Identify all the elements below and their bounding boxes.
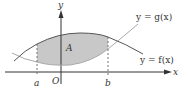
y-axis-arrow-icon bbox=[59, 10, 64, 18]
x-axis-label: x bbox=[173, 67, 178, 77]
x-axis-arrow-icon bbox=[164, 70, 172, 75]
origin-label: O bbox=[52, 76, 60, 86]
y-axis-label: y bbox=[57, 0, 64, 10]
curve-f-label: y = f(x) bbox=[139, 55, 174, 65]
curve-g-label: y = g(x) bbox=[135, 12, 172, 22]
shaded-region-a bbox=[37, 33, 108, 65]
area-between-curves-diagram: y x O a b A y = g(x) y = f(x) bbox=[0, 0, 188, 98]
bound-b-label: b bbox=[105, 78, 111, 88]
bound-a-label: a bbox=[34, 78, 39, 88]
region-a-label: A bbox=[65, 43, 73, 53]
